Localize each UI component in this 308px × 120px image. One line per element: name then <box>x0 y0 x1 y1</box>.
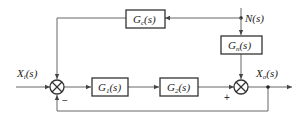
g2-label: G2(s) <box>167 81 190 95</box>
output-signal-label: Xo(s) <box>255 67 278 81</box>
gn-label: Gn(s) <box>228 39 251 53</box>
g1-label: G1(s) <box>98 81 121 95</box>
gc-label: Gc(s) <box>133 13 156 27</box>
block-diagram: Gc(s) Gn(s) G1(s) G2(s) Xi(s) Xo(s) N(s)… <box>0 0 308 120</box>
minus-sign: − <box>62 95 68 106</box>
gc-to-j1-line <box>57 18 126 79</box>
disturbance-label: N(s) <box>244 12 264 25</box>
plus-sign: + <box>224 92 230 103</box>
summing-junction-2 <box>234 80 248 94</box>
summing-junction-1 <box>50 80 64 94</box>
input-signal-label: Xi(s) <box>16 67 38 81</box>
output-pickoff-point <box>266 85 270 89</box>
